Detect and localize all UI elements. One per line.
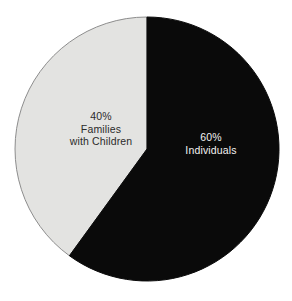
pie-chart: 40% Families with Children 60% Individua… <box>0 0 292 301</box>
pie-chart-canvas <box>0 0 292 301</box>
